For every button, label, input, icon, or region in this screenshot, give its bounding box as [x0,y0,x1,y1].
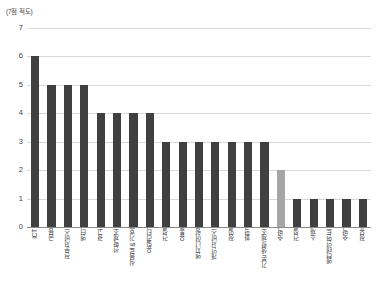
x-tick-label: 유통 [179,229,186,241]
x-tick-label: 선박제조 [114,229,121,253]
x-tick-label: 정유 [359,229,366,241]
bar [342,199,350,227]
bar [244,142,252,227]
y-tick-label: 1 [19,195,23,203]
bar [326,199,334,227]
x-tick-label: 건설 [163,229,170,241]
x-tick-label: 화학 [245,229,252,241]
x-tick-label: 정밀 [228,229,235,241]
bar [146,113,154,227]
y-tick-label: 3 [19,138,23,146]
bar [228,142,236,227]
x-tick-label: 소재 [310,229,317,241]
x-tick-label: 전문서비스 [65,229,72,259]
plot-area: 76543210 [27,28,371,227]
bar [129,113,137,227]
x-tick-label: 식음료 & 기호 [130,229,137,266]
x-tick-label: 엔지니어링 [196,229,203,259]
bar [47,85,55,227]
y-tick-label: 5 [19,81,23,89]
x-tick-label: 엔터 [81,229,88,241]
bar [113,113,121,227]
bar [179,142,187,227]
x-tick-label: ICT [32,229,39,239]
x-tick-label: 건설 [294,229,301,241]
bar [260,142,268,227]
x-tick-label: 숙박 [343,229,350,241]
bar [195,142,203,227]
y-tick-label: 2 [19,166,23,174]
bar-chart: (7점 적도) 76543210 ICT금융전문서비스엔터광고선박제조식음료 &… [0,0,377,288]
bar [162,142,170,227]
x-tick-label: 기본 생활 제조 [261,229,268,268]
bar [277,170,285,227]
x-tick-label: 유틸리티 [147,229,154,253]
y-tick-label: 6 [19,53,23,61]
bar [310,199,318,227]
bar [31,56,39,227]
bar [80,85,88,227]
y-tick-label: 7 [19,24,23,32]
x-tick-label: 광고 [97,229,104,241]
y-axis-unit-label: (7점 적도) [6,6,32,16]
x-tick-label: 금융 [48,229,55,241]
y-tick-label: 0 [19,223,23,231]
x-tick-label: 개인 서비스 [212,229,219,260]
bar [211,142,219,227]
x-axis-labels: ICT금융전문서비스엔터광고선박제조식음료 & 기호유틸리티건설유통엔지니어링개… [27,229,371,288]
bar [359,199,367,227]
bar [97,113,105,227]
bar [293,199,301,227]
y-tick-label: 4 [19,110,23,118]
bars [27,28,371,227]
x-tick-label: 숙박 [278,229,285,241]
bar [64,85,72,227]
x-tick-label: 엔터테인먼트 [327,229,334,264]
